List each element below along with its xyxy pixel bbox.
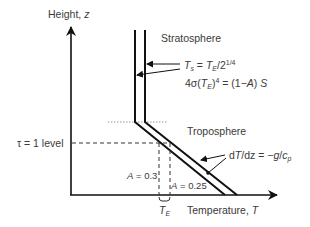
diagram-canvas xyxy=(0,0,310,227)
stratosphere-label: Stratosphere xyxy=(161,33,221,44)
tau-level-label: τ = 1 level xyxy=(17,138,63,149)
albedo-03-label: A = 0.3 xyxy=(127,171,157,181)
te-label: TE xyxy=(159,205,170,217)
profile-line-a025 xyxy=(145,30,237,195)
y-axis-label: Height, z xyxy=(48,9,89,20)
lapse-rate-equation: dT/dz = −g/cp xyxy=(229,150,291,162)
te-brace xyxy=(159,197,170,201)
ts-arrow-lower xyxy=(137,69,180,75)
lapse-arrow-dot xyxy=(206,171,210,175)
x-axis-label: Temperature, T xyxy=(187,205,258,216)
ts-equation: Ts = TE/21/4 xyxy=(184,59,235,72)
albedo-025-label: A = 0.25 xyxy=(171,181,207,191)
lapse-arrow-upper xyxy=(201,155,225,160)
lapse-arrow-lower xyxy=(208,158,226,173)
troposphere-label: Troposphere xyxy=(187,126,246,137)
energy-balance-equation: 4σ(TE)4 = (1−A) S xyxy=(185,77,267,90)
